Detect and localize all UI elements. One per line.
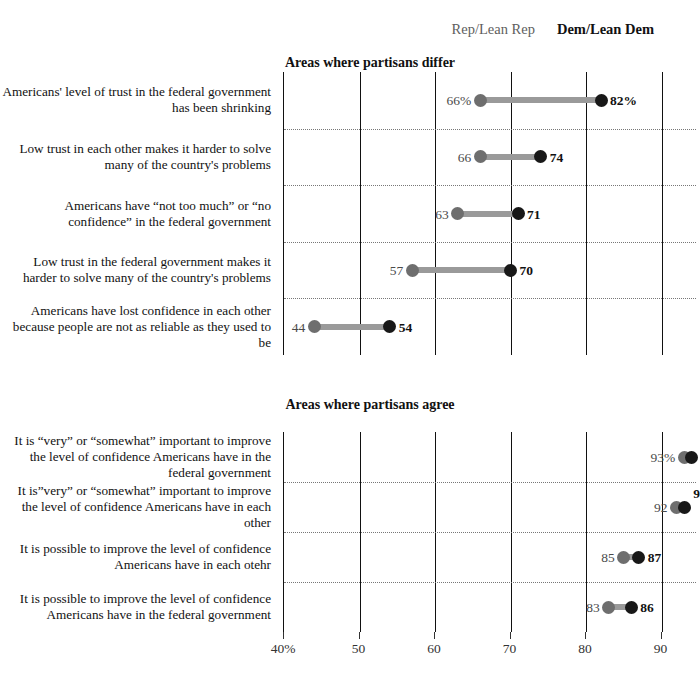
value-label-rep: 85 — [601, 551, 615, 565]
row-separator — [284, 242, 696, 243]
data-point-dem — [595, 94, 608, 107]
row-label: Americans have “not too much” or “no con… — [0, 198, 271, 230]
x-tick-80 — [585, 632, 586, 639]
row-label: Low trust in each other makes it harder … — [0, 141, 271, 173]
gridline-80 — [586, 72, 587, 355]
row-label-column: It is “very” or “somewhat” important to … — [0, 432, 277, 632]
x-tick-label-70: 70 — [503, 641, 517, 657]
value-label-rep: 44 — [292, 321, 306, 335]
value-label-rep: 92 — [654, 501, 668, 515]
x-tick-label-90: 90 — [654, 641, 668, 657]
data-point-rep — [602, 601, 615, 614]
row-label: It is “very” or “somewhat” important to … — [0, 433, 271, 481]
dumbbell-connector — [458, 211, 518, 217]
value-label-dem: 87 — [648, 551, 662, 565]
data-point-rep — [308, 320, 321, 333]
value-label-dem: 82% — [610, 94, 637, 108]
data-point-rep — [451, 207, 464, 220]
x-tick-label-80: 80 — [578, 641, 592, 657]
row-label: Americans' level of trust in the federal… — [0, 84, 271, 116]
panel-title: Areas where partisans agree — [0, 397, 700, 413]
row-separator — [284, 298, 696, 299]
plot-area: 93%94929385878386 — [283, 432, 696, 632]
x-tick-label-60: 60 — [427, 641, 441, 657]
value-label-dem: 54 — [399, 321, 413, 335]
data-point-dem — [678, 501, 691, 514]
data-point-dem — [504, 264, 517, 277]
data-point-dem — [625, 601, 638, 614]
value-label-rep: 83 — [586, 601, 600, 615]
value-label-rep: 66% — [447, 94, 472, 108]
data-point-dem — [632, 551, 645, 564]
dumbbell-connector — [314, 324, 390, 330]
data-point-dem — [534, 150, 547, 163]
row-label: It is”very” or “somewhat” important to i… — [0, 483, 271, 531]
row-label: Low trust in the federal government make… — [0, 254, 271, 286]
dumbbell-connector — [412, 267, 510, 273]
x-tick-label-40: 40% — [271, 641, 296, 657]
row-label: It is possible to improve the level of c… — [0, 541, 271, 573]
legend-item-dem: Dem/Lean Dem — [557, 21, 654, 38]
x-tick-90 — [661, 632, 662, 639]
data-point-dem — [512, 207, 525, 220]
row-separator — [284, 532, 696, 533]
data-point-rep — [474, 150, 487, 163]
row-separator — [284, 482, 696, 483]
data-point-dem — [383, 320, 396, 333]
x-tick-label-50: 50 — [352, 641, 366, 657]
row-label-column: Americans' level of trust in the federal… — [0, 72, 277, 355]
x-tick-60 — [434, 632, 435, 639]
row-separator — [284, 129, 696, 130]
row-separator — [284, 185, 696, 186]
x-tick-70 — [510, 632, 511, 639]
legend-item-rep: Rep/Lean Rep — [452, 21, 535, 38]
value-label-dem: 70 — [520, 264, 534, 278]
gridline-90 — [662, 72, 663, 355]
data-point-rep — [617, 551, 630, 564]
panel-title: Areas where partisans differ — [0, 55, 700, 71]
data-point-rep — [474, 94, 487, 107]
chart-legend: Rep/Lean Rep Dem/Lean Dem — [0, 18, 692, 40]
value-label-rep: 93% — [650, 451, 675, 465]
row-label: Americans have lost confidence in each o… — [0, 303, 271, 351]
x-tick-40 — [283, 632, 284, 639]
row-separator — [284, 582, 696, 583]
value-label-dem: 74 — [550, 151, 564, 165]
dumbbell-connector — [480, 97, 601, 103]
dumbbell-connector — [480, 154, 540, 160]
gridline-50 — [360, 72, 361, 355]
plot-area: 66%82%6674637157704454 — [283, 72, 696, 355]
value-label-rep: 63 — [435, 208, 449, 222]
value-label-dem: 71 — [527, 208, 541, 222]
data-point-dem — [685, 451, 698, 464]
value-label-rep: 57 — [390, 264, 404, 278]
value-label-dem: 86 — [640, 601, 654, 615]
data-point-rep — [406, 264, 419, 277]
row-label: It is possible to improve the level of c… — [0, 591, 271, 623]
x-tick-50 — [359, 632, 360, 639]
value-label-rep: 66 — [458, 151, 472, 165]
value-label-dem: 93 — [693, 487, 700, 501]
